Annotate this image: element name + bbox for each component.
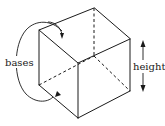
- cube-figure: bases height: [0, 0, 165, 126]
- height-arrow-up-head: [141, 40, 146, 47]
- bases-arrow-top-head: [60, 33, 64, 39]
- height-label: height: [133, 61, 165, 72]
- cube-diagram: bases height: [0, 0, 165, 126]
- bases-arrow-bottom-head: [55, 91, 61, 97]
- hidden-edge-bottom-left: [39, 56, 94, 85]
- height-arrow-down-head: [141, 85, 146, 92]
- bases-label: bases: [5, 57, 34, 68]
- edge-bottom-front-right: [78, 91, 130, 118]
- top-base-face: [39, 8, 130, 63]
- hidden-edge-bottom-right: [94, 56, 130, 91]
- bases-arrow-top-tail: [48, 22, 62, 34]
- edge-bottom-front-left: [39, 85, 78, 118]
